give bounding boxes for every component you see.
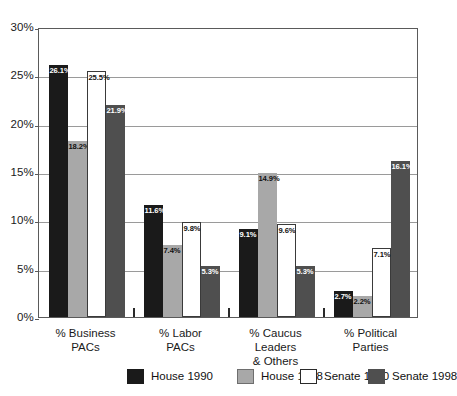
x-category-label-line: % Business <box>38 326 133 340</box>
y-tick-label: 0% <box>0 312 34 324</box>
bar-value-label: 18.2% <box>69 143 87 151</box>
x-category-label: % LaborPACs <box>133 326 228 354</box>
bar-value-label: 21.9% <box>107 107 125 115</box>
bar: 5.3% <box>201 266 220 317</box>
bar-value-label: 25.5% <box>89 74 105 82</box>
bar: 9.8% <box>182 222 201 317</box>
bar-value-label: 26.1% <box>50 67 68 75</box>
y-tick-label: 5% <box>0 264 34 276</box>
x-axis-group-tick <box>133 308 135 317</box>
x-category-label: % Caucus Leaders& Others <box>228 326 323 368</box>
bar: 2.7% <box>334 291 353 317</box>
x-axis-group-tick <box>323 308 325 317</box>
bar-value-label: 9.1% <box>240 231 258 239</box>
bar-value-label: 2.2% <box>354 298 372 306</box>
legend-swatch <box>368 369 385 384</box>
y-tick-mark <box>35 319 39 320</box>
x-category-label-line: PACs <box>133 340 228 354</box>
x-category-label-line: % Caucus Leaders <box>228 326 323 354</box>
legend-item-1[interactable]: House 1990 <box>127 366 213 386</box>
bar-value-label: 9.6% <box>279 227 295 235</box>
bar-value-label: 7.1% <box>374 251 390 259</box>
bar-value-label: 16.1% <box>392 163 410 171</box>
bar: 5.3% <box>296 266 315 317</box>
x-category-label-line: Parties <box>323 340 418 354</box>
bar-value-label: 7.4% <box>164 247 182 255</box>
x-category-label: % PoliticalParties <box>323 326 418 354</box>
x-category-label: % BusinessPACs <box>38 326 133 354</box>
y-tick-label: 20% <box>0 119 34 131</box>
y-tick-label: 10% <box>0 215 34 227</box>
bar-value-label: 5.3% <box>202 268 220 276</box>
y-tick-label: 25% <box>0 70 34 82</box>
bar: 26.1% <box>49 65 68 317</box>
bar: 9.6% <box>277 224 296 317</box>
plot-area: 26.1%18.2%25.5%21.9%11.6%7.4%9.8%5.3%9.1… <box>38 28 418 318</box>
bar-value-label: 2.7% <box>335 293 353 301</box>
bar: 21.9% <box>106 105 125 317</box>
bar: 14.9% <box>258 173 277 317</box>
legend-swatch <box>127 369 144 384</box>
bar: 9.1% <box>239 229 258 317</box>
bar: 2.2% <box>353 296 372 317</box>
bar: 7.1% <box>372 248 391 317</box>
y-tick-label: 30% <box>0 22 34 34</box>
bar-value-label: 14.9% <box>259 175 277 183</box>
bar: 16.1% <box>391 161 410 317</box>
x-category-label-line: PACs <box>38 340 133 354</box>
legend-item-4[interactable]: Senate 1998 <box>368 366 457 386</box>
y-axis: 30%25%20%15%10%5%0% <box>0 20 34 324</box>
bars-layer: 26.1%18.2%25.5%21.9%11.6%7.4%9.8%5.3%9.1… <box>39 29 417 317</box>
bar-value-label: 11.6% <box>145 207 163 215</box>
bar: 11.6% <box>144 205 163 317</box>
x-axis-group-tick <box>228 308 230 317</box>
legend-label: House 1990 <box>151 370 213 382</box>
legend-swatch <box>300 369 317 384</box>
bar: 25.5% <box>87 71 106 318</box>
x-category-label-line: % Political <box>323 326 418 340</box>
y-tick-label: 15% <box>0 167 34 179</box>
bar-value-label: 5.3% <box>297 268 315 276</box>
legend-swatch <box>237 369 254 384</box>
chart-legend: House 1990House 1998Senate 1990Senate 19… <box>0 366 454 390</box>
x-category-label-line: % Labor <box>133 326 228 340</box>
bar-value-label: 9.8% <box>184 225 200 233</box>
legend-label: Senate 1998 <box>392 370 457 382</box>
x-axis-category-labels: % BusinessPACs% LaborPACs% Caucus Leader… <box>38 326 418 360</box>
bar: 7.4% <box>163 245 182 317</box>
bar: 18.2% <box>68 141 87 317</box>
